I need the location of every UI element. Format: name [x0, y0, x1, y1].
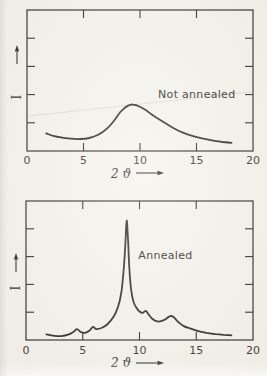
plot-frame: [26, 201, 253, 340]
x-axis-arrow-icon: [136, 361, 164, 365]
plot-frame: [27, 10, 253, 151]
y-axis-arrow-icon: [14, 253, 18, 272]
x-tick-label: 15: [190, 154, 204, 167]
y-axis-label: I: [10, 94, 24, 99]
x-axis-arrow-icon: [136, 171, 164, 175]
x-tick-label: 10: [133, 154, 147, 167]
x-tick-label: 20: [246, 344, 260, 357]
chart-annealed: 05101520AnnealedI2 ϑ: [0, 188, 267, 376]
annotation-label: Not annealed: [158, 88, 235, 101]
y-axis-arrow-icon: [15, 45, 19, 64]
x-tick-label: 5: [79, 344, 86, 357]
x-tick-label: 20: [246, 154, 260, 167]
annotation-label: Annealed: [138, 249, 192, 262]
y-axis-label: I: [9, 285, 23, 290]
x-tick-label: 0: [24, 154, 31, 167]
x-tick-label: 0: [23, 344, 30, 357]
diffraction-figure: 05101520Not annealedI2 ϑ 05101520Anneale…: [0, 0, 267, 376]
x-tick-label: 5: [80, 154, 87, 167]
intensity-curve: [46, 220, 231, 336]
x-axis-label: 2 ϑ: [110, 356, 131, 370]
x-tick-label: 15: [189, 344, 203, 357]
chart-not-annealed: 05101520Not annealedI2 ϑ: [0, 0, 267, 188]
x-tick-label: 10: [133, 344, 147, 357]
intensity-curve: [46, 104, 231, 142]
x-axis-label: 2 ϑ: [110, 167, 131, 181]
